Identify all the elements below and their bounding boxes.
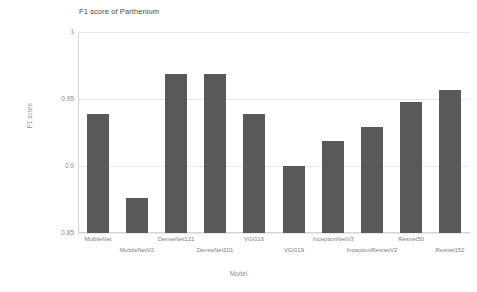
bar xyxy=(243,114,265,233)
bar xyxy=(165,74,187,233)
bar xyxy=(87,114,109,233)
bar xyxy=(361,127,383,233)
x-tick-label: VGG16 xyxy=(244,236,264,242)
bar xyxy=(126,198,148,233)
x-tick-label: DenseNet201 xyxy=(197,247,234,253)
gridline xyxy=(78,99,470,100)
y-axis-title: F1 score xyxy=(26,86,33,146)
gridline xyxy=(78,32,470,33)
chart-title: F1 score of Parthenium xyxy=(79,7,159,16)
y-tick-label: 0.95 xyxy=(52,95,74,102)
x-tick-label: MobileNet xyxy=(84,236,111,242)
x-tick-label: InceptionNetV3 xyxy=(312,236,353,242)
bar-chart: F1 score of Parthenium F1 score 0.850.90… xyxy=(0,0,477,292)
y-tick-label: 0.85 xyxy=(52,229,74,236)
x-tick-label: Resnet152 xyxy=(435,247,464,253)
y-tick-label: 0.9 xyxy=(52,162,74,169)
y-tick-label: 1 xyxy=(52,28,74,35)
x-axis-title: Model xyxy=(0,270,477,277)
bar xyxy=(400,102,422,233)
x-tick-label: DenseNet121 xyxy=(158,236,195,242)
bar xyxy=(439,90,461,233)
x-tick-label: VGG19 xyxy=(284,247,304,253)
bar xyxy=(322,141,344,233)
x-tick-label: MobileNetV2 xyxy=(120,247,154,253)
x-tick-label: InceptionResnetV2 xyxy=(347,247,398,253)
gridline xyxy=(78,233,470,234)
bar xyxy=(283,166,305,233)
bar xyxy=(204,74,226,233)
x-tick-label: Resnet50 xyxy=(398,236,424,242)
